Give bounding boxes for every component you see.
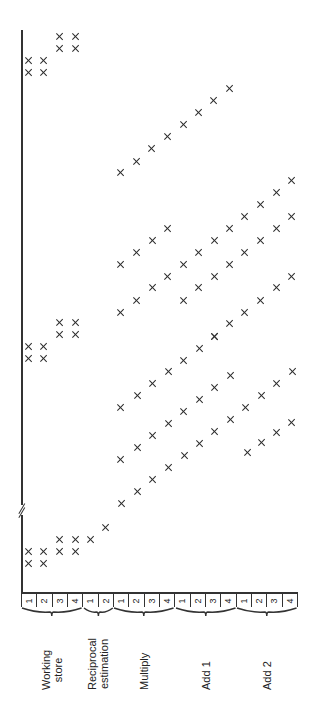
cross-mark-icon xyxy=(133,443,141,451)
cross-mark-icon xyxy=(226,371,234,379)
cross-mark-icon xyxy=(272,379,280,387)
cross-mark-icon xyxy=(194,283,202,291)
cross-mark-icon xyxy=(287,272,295,280)
cross-mark-icon xyxy=(132,296,140,304)
cross-mark-icon xyxy=(272,283,280,291)
cross-mark-icon xyxy=(240,212,248,220)
cross-mark-icon xyxy=(210,332,218,340)
stage-tick: 4 xyxy=(283,594,298,607)
cross-mark-icon xyxy=(225,260,233,268)
cross-mark-icon xyxy=(148,283,156,291)
cross-mark-icon xyxy=(164,463,172,471)
cross-mark-icon xyxy=(55,44,63,52)
cross-mark-icon xyxy=(272,428,280,436)
stage-tick-label: 4 xyxy=(223,598,233,603)
stage-tick: 2 xyxy=(191,594,206,607)
stage-tick-label: 3 xyxy=(55,598,65,603)
stage-tick: 2 xyxy=(99,594,114,607)
stage-tick-label: 4 xyxy=(70,598,80,603)
stage-tick: 1 xyxy=(114,594,129,607)
stage-tick: 1 xyxy=(83,594,98,607)
cross-mark-icon xyxy=(71,547,79,555)
cross-mark-icon xyxy=(133,487,141,495)
group-brace-icon xyxy=(113,607,175,617)
group-label-line: Reciprocal xyxy=(86,638,98,690)
cross-mark-icon xyxy=(39,68,47,76)
cross-mark-icon xyxy=(132,157,140,165)
cross-mark-icon xyxy=(39,342,47,350)
stage-tick-label: 2 xyxy=(101,598,111,603)
cross-mark-icon xyxy=(226,415,234,423)
cross-mark-icon xyxy=(39,559,47,567)
cross-mark-icon xyxy=(148,475,156,483)
stage-tick: 4 xyxy=(160,594,175,607)
stage-tick-label: 1 xyxy=(24,598,34,603)
time-axis-upper xyxy=(21,30,23,505)
cross-mark-icon xyxy=(194,248,202,256)
cross-mark-icon xyxy=(148,236,156,244)
time-axis-lower xyxy=(21,515,23,594)
cross-mark-icon xyxy=(179,407,187,415)
cross-mark-icon xyxy=(163,224,171,232)
cross-mark-icon xyxy=(71,535,79,543)
stage-tick: 2 xyxy=(129,594,144,607)
group-label: Multiply xyxy=(138,653,150,690)
cross-mark-icon xyxy=(55,32,63,40)
cross-mark-icon xyxy=(133,391,141,399)
stage-tick-label: 1 xyxy=(177,598,187,603)
stage-tick: 4 xyxy=(68,594,83,607)
cross-mark-icon xyxy=(287,176,295,184)
group-label: Workingstore xyxy=(40,650,64,690)
stage-tick-label: 4 xyxy=(285,598,295,603)
stage-tick: 3 xyxy=(145,594,160,607)
cross-mark-icon xyxy=(116,308,124,316)
cross-mark-icon xyxy=(210,383,218,391)
cross-mark-icon xyxy=(71,44,79,52)
stage-tick: 3 xyxy=(267,594,282,607)
cross-mark-icon xyxy=(71,330,79,338)
group-label-line: Add 1 xyxy=(200,661,212,690)
cross-mark-icon xyxy=(24,547,32,555)
cross-mark-icon xyxy=(272,224,280,232)
stage-tick: 3 xyxy=(53,594,68,607)
cross-mark-icon xyxy=(257,438,265,446)
cross-mark-icon xyxy=(210,236,218,244)
group-brace-icon xyxy=(175,607,237,617)
cross-mark-icon xyxy=(241,403,249,411)
cross-mark-icon xyxy=(240,308,248,316)
group-brace-icon xyxy=(83,607,114,617)
cross-mark-icon xyxy=(71,32,79,40)
stage-tick: 3 xyxy=(206,594,221,607)
cross-mark-icon xyxy=(210,272,218,280)
cross-mark-icon xyxy=(225,224,233,232)
cross-mark-icon xyxy=(24,354,32,362)
group-label-line: Add 2 xyxy=(261,661,273,690)
cross-mark-icon xyxy=(147,144,155,152)
group-label: Reciprocalestimation xyxy=(86,638,110,690)
group-label: Add 1 xyxy=(200,661,212,690)
cross-mark-icon xyxy=(148,431,156,439)
cross-mark-icon xyxy=(195,395,203,403)
stage-tick-label: 2 xyxy=(254,598,264,603)
group-label-line: Multiply xyxy=(138,653,150,690)
pipeline-timing-diagram: 123412123412341234 WorkingstoreReciproca… xyxy=(0,0,320,701)
cross-mark-icon xyxy=(116,455,124,463)
cross-mark-icon xyxy=(24,559,32,567)
cross-mark-icon xyxy=(256,236,264,244)
cross-mark-icon xyxy=(179,296,187,304)
cross-mark-icon xyxy=(179,356,187,364)
axis-break-icon xyxy=(14,505,30,515)
cross-mark-icon xyxy=(116,260,124,268)
cross-mark-icon xyxy=(132,248,140,256)
stage-tick-label: 2 xyxy=(131,598,141,603)
cross-mark-icon xyxy=(164,367,172,375)
stage-tick: 2 xyxy=(252,594,267,607)
cross-mark-icon xyxy=(288,367,296,375)
stage-tick-label: 1 xyxy=(116,598,126,603)
stage-tick: 1 xyxy=(175,594,190,607)
cross-mark-icon xyxy=(256,200,264,208)
group-label-line: store xyxy=(52,650,64,690)
cross-mark-icon xyxy=(55,318,63,326)
stage-tick-label: 2 xyxy=(39,598,49,603)
stage-tick-label: 1 xyxy=(85,598,95,603)
